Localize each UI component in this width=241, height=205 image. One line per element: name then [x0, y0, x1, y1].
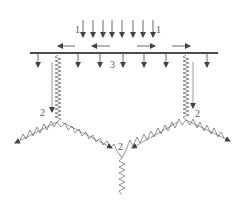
label-top-left: 1	[75, 24, 80, 35]
left-column	[55, 55, 61, 122]
guide-arrows	[15, 62, 230, 148]
right-column	[183, 55, 189, 120]
label-bottom-junction: 2	[118, 141, 123, 152]
load-diagram: 1 1 3	[0, 0, 241, 205]
top-load-arrows	[83, 20, 153, 37]
left-lower-arm	[57, 122, 122, 158]
label-right-junction: 2	[195, 108, 200, 119]
label-left-junction: 2	[40, 107, 45, 118]
bottom-column	[119, 158, 125, 195]
label-top-right: 1	[156, 24, 161, 35]
left-outer-arm	[20, 121, 57, 140]
label-plate: 3	[110, 59, 115, 70]
plate-arrows	[38, 54, 207, 67]
right-lower-arm	[122, 119, 186, 158]
